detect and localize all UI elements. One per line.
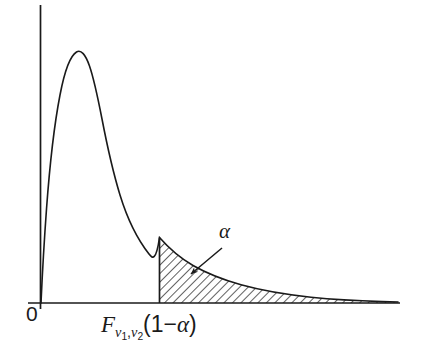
quantile-open-paren: (	[143, 311, 151, 337]
density-curve-line	[41, 51, 398, 303]
quantile-subscript: ν1,ν2	[115, 324, 143, 340]
f-distribution-figure: 0 α Fν1,ν2(1−α)	[0, 0, 433, 358]
critical-value-label: Fν1,ν2(1−α)	[101, 313, 197, 342]
quantile-close-paren: )	[189, 311, 197, 337]
plot-canvas	[0, 0, 433, 358]
quantile-one: 1	[151, 311, 164, 337]
alpha-label: α	[219, 221, 230, 242]
quantile-symbol: F	[101, 312, 115, 337]
density-curve	[41, 53, 160, 303]
quantile-alpha: α	[177, 312, 189, 337]
alpha-annotation-arrow	[191, 248, 222, 274]
origin-label: 0	[26, 303, 38, 324]
quantile-minus: −	[164, 311, 177, 337]
